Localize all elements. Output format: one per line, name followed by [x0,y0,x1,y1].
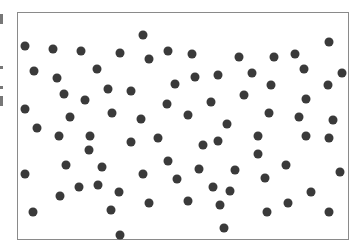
data-point [33,124,42,133]
data-point [325,38,334,47]
data-point [220,224,229,233]
data-point [30,67,39,76]
data-point [265,109,274,118]
data-point [338,69,347,78]
data-point [191,73,200,82]
data-point [93,65,102,74]
data-point [284,199,293,208]
data-point [21,105,30,114]
data-point [248,69,257,78]
data-point [325,134,334,143]
data-point [307,188,316,197]
data-point [75,183,84,192]
data-point [214,137,223,146]
data-point [216,201,225,210]
data-point [55,132,64,141]
data-point [66,113,75,122]
data-point [195,165,204,174]
data-point [173,175,182,184]
data-point [145,55,154,64]
data-point [235,53,244,62]
data-point [77,47,86,56]
data-point [56,192,65,201]
data-point [231,166,240,175]
data-point [108,109,117,118]
data-point [60,90,69,99]
data-point [104,85,113,94]
data-point [139,170,148,179]
data-point [21,42,30,51]
data-point [199,141,208,150]
data-point [336,168,345,177]
data-point [267,81,276,90]
data-point [85,146,94,155]
data-point [223,120,232,129]
scatter-plot [0,0,360,252]
data-point [263,208,272,217]
data-point [254,132,263,141]
data-point [127,87,136,96]
data-point [139,31,148,40]
data-point [137,115,146,124]
data-point [207,98,216,107]
data-point [226,187,235,196]
data-point [29,208,38,217]
data-point [240,91,249,100]
data-point [295,113,304,122]
data-point [188,50,197,59]
data-point [86,132,95,141]
data-point [329,116,338,125]
data-point [171,80,180,89]
data-point [209,183,218,192]
data-point [115,188,124,197]
data-point [164,47,173,56]
data-point [261,174,270,183]
data-point [107,206,116,215]
data-point [53,74,62,83]
data-point [270,53,279,62]
data-point [291,50,300,59]
data-point [300,65,309,74]
data-point [116,231,125,240]
data-point [302,132,311,141]
data-point [94,181,103,190]
data-point [164,157,173,166]
data-point [184,111,193,120]
data-point [116,49,125,58]
data-point [282,161,291,170]
data-point [62,161,71,170]
data-point [324,81,333,90]
data-point [145,199,154,208]
data-point [184,197,193,206]
data-point [127,138,136,147]
data-point [98,163,107,172]
data-point [49,45,58,54]
data-point [154,134,163,143]
data-point [254,150,263,159]
data-point [214,71,223,80]
data-point [302,95,311,104]
data-point [325,208,334,217]
data-point [163,100,172,109]
data-point [21,170,30,179]
data-point [81,96,90,105]
